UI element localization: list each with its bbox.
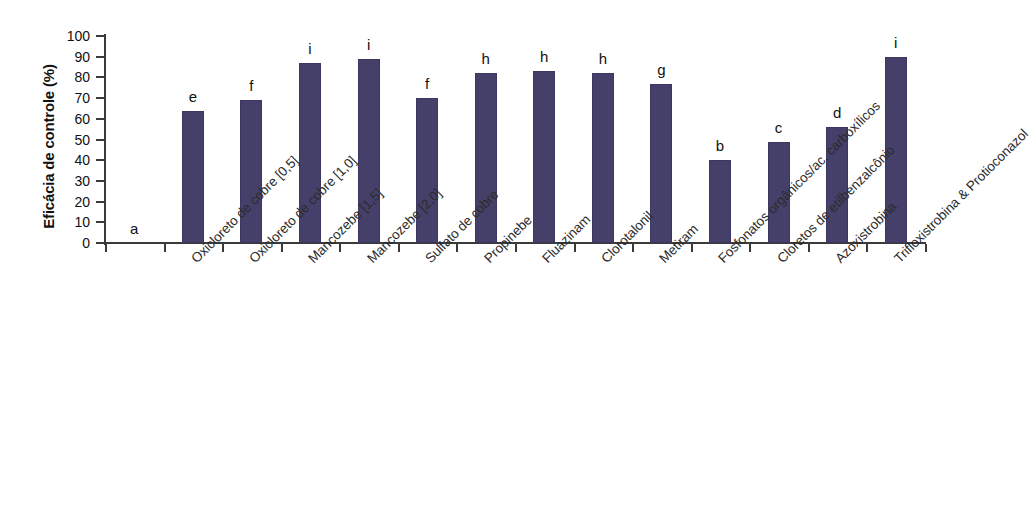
y-tick-mark (96, 139, 104, 141)
bar-significance-letter: h (583, 51, 623, 66)
y-tick-mark (96, 221, 104, 223)
bar-significance-letter: g (641, 62, 681, 77)
x-tick-mark (164, 244, 166, 252)
y-tick-label: 0 (46, 236, 90, 250)
x-tick-mark (866, 244, 868, 252)
bar-significance-letter: c (759, 120, 799, 135)
y-tick-label: 80 (46, 70, 90, 84)
x-tick-mark (691, 244, 693, 252)
bar-significance-letter: i (349, 37, 389, 52)
bar-significance-letter: h (466, 51, 506, 66)
y-tick-mark (96, 180, 104, 182)
bar-significance-letter: a (114, 221, 154, 236)
x-tick-mark (105, 244, 107, 252)
y-tick-label: 100 (46, 29, 90, 43)
bar-significance-letter: h (524, 49, 564, 64)
x-tick-mark (808, 244, 810, 252)
bar-significance-letter: i (290, 41, 330, 56)
y-tick-label: 90 (46, 50, 90, 64)
x-tick-mark (515, 244, 517, 252)
y-tick-label: 50 (46, 133, 90, 147)
y-tick-mark (96, 159, 104, 161)
bar-significance-letter: i (876, 35, 916, 50)
x-tick-mark (925, 244, 927, 252)
y-tick-mark (96, 201, 104, 203)
bar (182, 111, 204, 243)
y-axis-line (104, 34, 106, 245)
bar (533, 71, 555, 243)
bar (240, 100, 262, 243)
x-tick-mark (632, 244, 634, 252)
y-tick-label: 10 (46, 215, 90, 229)
bar (709, 160, 731, 243)
y-tick-mark (96, 56, 104, 58)
y-tick-label: 20 (46, 195, 90, 209)
y-tick-mark (96, 242, 104, 244)
x-tick-mark (574, 244, 576, 252)
y-tick-label: 40 (46, 153, 90, 167)
y-tick-label: 70 (46, 91, 90, 105)
bar-significance-letter: e (173, 89, 213, 104)
y-tick-mark (96, 97, 104, 99)
x-tick-mark (339, 244, 341, 252)
bar-significance-letter: f (407, 76, 447, 91)
y-tick-label: 60 (46, 112, 90, 126)
y-tick-mark (96, 118, 104, 120)
bar-significance-letter: b (700, 138, 740, 153)
bar (592, 73, 614, 243)
x-category-label: Trifloxistrobina & Protioconazol (892, 127, 1031, 266)
x-tick-mark (749, 244, 751, 252)
bar-significance-letter: f (231, 78, 271, 93)
x-tick-mark (281, 244, 283, 252)
x-tick-mark (398, 244, 400, 252)
y-tick-mark (96, 76, 104, 78)
x-tick-mark (456, 244, 458, 252)
y-tick-mark (96, 35, 104, 37)
x-tick-mark (222, 244, 224, 252)
y-tick-label: 30 (46, 174, 90, 188)
